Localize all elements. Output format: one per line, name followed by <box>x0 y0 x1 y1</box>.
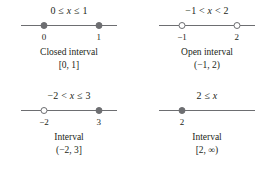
number-line: 2 <box>159 107 255 129</box>
number-line-axis <box>21 110 117 111</box>
endpoint-label-right: 3 <box>97 117 102 128</box>
inequality-expression: −1 < x < 2 <box>185 5 228 17</box>
endpoint-marker-right <box>233 22 240 29</box>
endpoint-label-left: 0 <box>42 32 47 43</box>
inequality-expression: 2 ≤ x <box>197 90 218 102</box>
interval-notation: (−1, 2) <box>194 59 220 71</box>
inequality-right: ≤ 1 <box>71 5 87 16</box>
number-line-axis <box>159 25 255 26</box>
inequality-right: < 2 <box>212 5 228 16</box>
number-line: −1 2 <box>159 22 255 44</box>
inequality-expression: −2 < x ≤ 3 <box>47 90 90 102</box>
endpoint-marker-right <box>95 107 102 114</box>
endpoint-marker-left <box>179 22 186 29</box>
interval-notation: [2, ∞) <box>196 144 219 156</box>
interval-panel-half-open: −2 < x ≤ 3 −2 3 Interval (−2, 3] <box>0 85 138 170</box>
inequality-left: 2 ≤ <box>197 90 213 101</box>
interval-panel-open: −1 < x < 2 −1 2 Open interval (−1, 2) <box>138 0 276 85</box>
inequality-variable: x <box>213 90 218 101</box>
interval-caption: Open interval <box>181 46 233 58</box>
number-line: −2 3 <box>21 107 117 129</box>
number-line: 0 1 <box>21 22 117 44</box>
endpoint-label-left: −1 <box>177 32 187 43</box>
number-line-axis <box>159 110 255 111</box>
interval-caption: Interval <box>54 131 84 143</box>
endpoint-label-left: −2 <box>39 117 49 128</box>
inequality-right: ≤ 3 <box>74 90 90 101</box>
interval-diagram-sheet: 0 ≤ x ≤ 1 0 1 Closed interval [0, 1] −1 … <box>0 0 276 170</box>
interval-caption: Interval <box>192 131 222 143</box>
endpoint-label-left: 2 <box>180 117 185 128</box>
interval-caption: Closed interval <box>40 46 98 58</box>
inequality-left: −1 < <box>185 5 207 16</box>
inequality-left: 0 ≤ <box>50 5 66 16</box>
endpoint-label-right: 1 <box>97 32 102 43</box>
endpoint-label-right: 2 <box>235 32 240 43</box>
endpoint-marker-left <box>41 107 48 114</box>
endpoint-marker-left <box>179 107 186 114</box>
number-line-axis <box>21 25 117 26</box>
interval-panel-closed: 0 ≤ x ≤ 1 0 1 Closed interval [0, 1] <box>0 0 138 85</box>
endpoint-marker-right <box>95 22 102 29</box>
inequality-left: −2 < <box>47 90 69 101</box>
interval-panel-unbounded: 2 ≤ x 2 Interval [2, ∞) <box>138 85 276 170</box>
endpoint-marker-left <box>41 22 48 29</box>
interval-notation: (−2, 3] <box>56 144 82 156</box>
interval-notation: [0, 1] <box>59 59 80 71</box>
inequality-expression: 0 ≤ x ≤ 1 <box>50 5 87 17</box>
